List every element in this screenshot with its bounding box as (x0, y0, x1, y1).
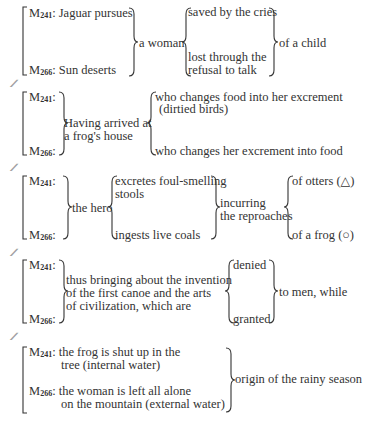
m266-label: M266: (29, 229, 56, 242)
m241-label: M241: (29, 91, 56, 104)
of-a-child-text: of a child (279, 37, 326, 50)
m241-label: M241: (29, 259, 56, 272)
option-changes-excrement: who changes her excrement into food (155, 145, 343, 158)
incurring-text-2: the reproaches (220, 210, 293, 223)
m241-text-2: tree (internal water) (61, 359, 160, 372)
m266-label: M266: (29, 145, 56, 158)
right-curly-brace (268, 8, 278, 76)
rainy-season-text: origin of the rainy season (235, 373, 362, 386)
to-men-text: to men, while (279, 286, 347, 299)
option-denied: denied (233, 259, 266, 272)
result-frog: of a frog (○) (292, 229, 354, 242)
option-granted: granted (233, 313, 270, 326)
m241-label: M241: Jaguar pursues (29, 7, 133, 20)
right-curly-brace (62, 176, 72, 239)
left-square-bracket (22, 92, 28, 155)
option-lost-2: refusal to talk (188, 64, 257, 77)
m241-label: M241: (29, 175, 56, 188)
separator-icon: // (8, 330, 18, 343)
invention-text-3: of civilization, which are (66, 300, 191, 313)
option-excretes-2: stools (115, 188, 144, 201)
the-hero-text: the hero (72, 202, 113, 215)
separator-icon: // (8, 246, 18, 259)
m266-label: M266: Sun deserts (29, 64, 116, 77)
right-curly-brace (128, 8, 138, 76)
m266-text-2: on the mountain (external water) (61, 398, 225, 411)
right-curly-brace (210, 176, 220, 239)
right-curly-brace (225, 348, 235, 412)
left-square-bracket (22, 7, 28, 75)
separator-icon: // (8, 77, 18, 90)
a-woman-text: a woman (139, 37, 184, 50)
result-otters: of otters (△) (292, 175, 354, 188)
left-square-bracket (22, 347, 28, 413)
left-square-bracket (22, 260, 28, 323)
option-saved: saved by the cries (188, 6, 277, 19)
option-ingests: ingests live coals (115, 229, 200, 242)
having-arrived-text-2: a frog's house (64, 130, 133, 143)
separator-icon: // (8, 161, 18, 174)
option-dirtied-birds: (dirtied birds) (159, 103, 228, 116)
left-square-bracket (22, 176, 28, 239)
m266-label: M266: (29, 313, 56, 326)
right-curly-brace (268, 260, 278, 323)
